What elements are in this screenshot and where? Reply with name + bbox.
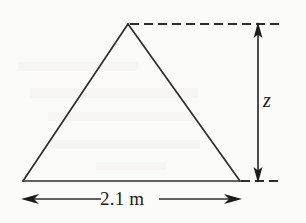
diagram-canvas xyxy=(0,0,306,223)
height-label: z xyxy=(263,90,271,110)
geometry-figure: z 2.1 m xyxy=(0,0,306,223)
triangle-left-edge xyxy=(23,24,128,181)
triangle-right-edge xyxy=(128,24,240,181)
triangle-shape xyxy=(23,24,240,181)
height-dimension-arrow xyxy=(254,22,263,183)
base-length-label: 2.1 m xyxy=(100,189,144,208)
